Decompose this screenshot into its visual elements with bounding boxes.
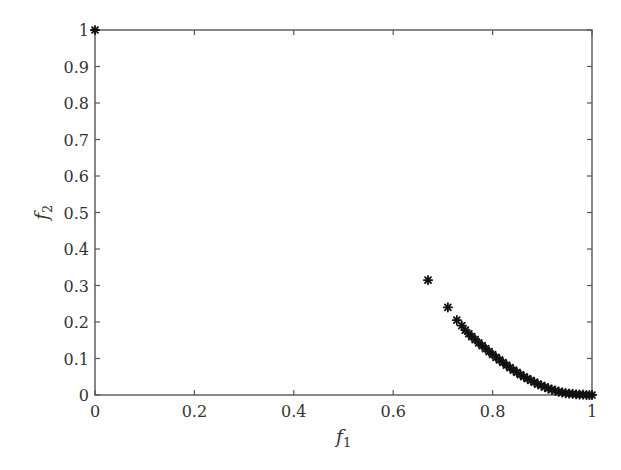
axes-frame [95, 30, 592, 395]
y-tick-label: 0.4 [64, 240, 89, 259]
axis-ticks [95, 30, 592, 395]
x-tick-label: 0.4 [281, 402, 306, 421]
x-tick-label: 0.2 [182, 402, 207, 421]
y-tick-label: 1 [79, 21, 89, 40]
pareto-scatter-chart: 00.20.40.60.81 00.10.20.30.40.50.60.70.8… [0, 0, 621, 470]
y-tick-label: 0.1 [64, 350, 89, 369]
y-tick-label: 0.5 [64, 204, 89, 223]
x-tick-label: 1 [587, 402, 597, 421]
y-tick-labels: 00.10.20.30.40.50.60.70.80.91 [64, 21, 89, 405]
y-tick-label: 0.8 [64, 94, 89, 113]
y-tick-label: 0.9 [64, 58, 89, 77]
data-point [424, 276, 432, 284]
y-tick-label: 0.7 [64, 131, 89, 150]
x-tick-labels: 00.20.40.60.81 [90, 402, 597, 421]
x-axis-label: f1 [334, 425, 351, 450]
y-tick-label: 0 [79, 386, 89, 405]
y-axis-label: f2 [30, 205, 55, 222]
data-points [91, 26, 596, 399]
y-tick-label: 0.3 [64, 277, 89, 296]
data-point [588, 391, 596, 399]
y-tick-label: 0.6 [64, 167, 89, 186]
data-point [444, 303, 452, 311]
x-tick-label: 0.8 [480, 402, 505, 421]
data-point [91, 26, 99, 34]
y-tick-label: 0.2 [64, 313, 89, 332]
x-tick-label: 0 [90, 402, 100, 421]
x-tick-label: 0.6 [380, 402, 405, 421]
